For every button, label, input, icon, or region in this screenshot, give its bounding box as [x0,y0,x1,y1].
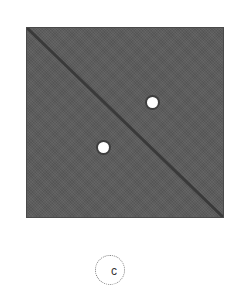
gray-square [26,27,224,218]
diagonal-line [27,28,223,217]
figure: c [0,0,242,295]
lower-left-dot [98,142,109,153]
upper-right-dot [147,97,158,108]
figure-label: c [111,265,117,277]
figure-label-badge: c [95,255,125,285]
